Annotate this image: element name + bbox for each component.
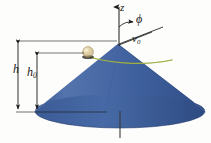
ball-sphere	[83, 47, 94, 58]
velocity-label: v0	[132, 33, 140, 46]
ball-highlight	[84, 49, 88, 52]
height-ball-subscript: 0	[33, 71, 37, 80]
phi-arc	[119, 22, 133, 27]
cone-ball-physics-figure: z ϕ v0 h h0	[0, 0, 211, 143]
phi-angle-label: ϕ	[136, 13, 142, 25]
velocity-subscript: 0	[137, 38, 140, 45]
z-axis-label: z	[120, 2, 124, 13]
phi-ray	[119, 27, 163, 44]
height-total-label: h	[13, 63, 19, 75]
height-ball-label: h0	[27, 66, 37, 80]
